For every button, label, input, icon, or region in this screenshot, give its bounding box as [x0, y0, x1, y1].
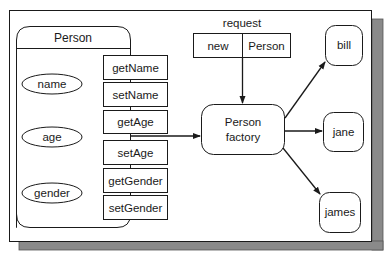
person-class-title: Person	[54, 31, 92, 45]
method-setName-label: setName	[112, 89, 158, 101]
person-factory-box: Person factory	[202, 105, 285, 155]
attribute-age: age	[22, 127, 82, 147]
method-getName: getName	[104, 56, 168, 80]
instance-jane: jane	[324, 113, 364, 152]
attribute-gender: gender	[22, 183, 82, 203]
attribute-age-label: age	[42, 131, 61, 143]
method-getGender-label: getGender	[108, 175, 163, 187]
request-cell-person: Person	[248, 40, 284, 52]
method-setAge: setAge	[104, 141, 168, 165]
method-getName-label: getName	[112, 62, 159, 74]
method-getGender: getGender	[104, 169, 168, 193]
method-getAge-label: getAge	[117, 116, 153, 128]
request-cell-new: new	[207, 40, 229, 52]
method-setName: setName	[104, 83, 168, 107]
factory-label-line1: Person	[225, 116, 261, 128]
method-setGender: setGender	[104, 196, 168, 220]
attribute-name-label: name	[38, 78, 67, 90]
instance-jane-label: jane	[332, 126, 355, 138]
instance-james-label: james	[324, 206, 356, 218]
method-setAge-label: setAge	[118, 147, 154, 159]
factory-label-line2: factory	[226, 131, 261, 143]
attribute-gender-label: gender	[34, 187, 70, 199]
method-setGender-label: setGender	[109, 202, 163, 214]
instance-bill: bill	[326, 26, 363, 66]
request-box: new Person	[194, 34, 291, 58]
object-factory-diagram: Person name age gender getName setName g…	[0, 0, 387, 259]
request-label: request	[223, 17, 262, 29]
instance-james: james	[320, 193, 361, 233]
instance-bill-label: bill	[337, 39, 351, 51]
method-getAge: getAge	[104, 111, 168, 134]
attribute-name: name	[22, 74, 82, 94]
